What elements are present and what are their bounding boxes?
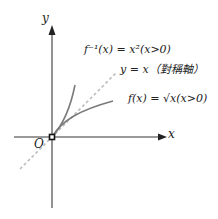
function-inverse-diagram: y x O f⁻¹(x) = x²(x>0) y = x（對稱軸） f(x) =… <box>0 0 218 219</box>
inverse-curve-label: f⁻¹(x) = x²(x>0) <box>84 43 171 56</box>
y-axis-label: y <box>42 11 49 25</box>
origin-label: O <box>34 137 44 151</box>
symmetry-line-label: y = x（對稱軸） <box>120 60 204 76</box>
graph-canvas <box>0 0 218 219</box>
origin-point <box>50 135 55 140</box>
y-axis-arrow-icon <box>49 25 56 35</box>
x-axis-label: x <box>168 127 175 141</box>
inverse-curve <box>52 85 75 137</box>
sqrt-curve-label: f(x) = √x(x>0) <box>128 92 207 105</box>
x-axis-arrow-icon <box>158 134 167 141</box>
symmetry-line-y-equals-x <box>20 73 116 169</box>
